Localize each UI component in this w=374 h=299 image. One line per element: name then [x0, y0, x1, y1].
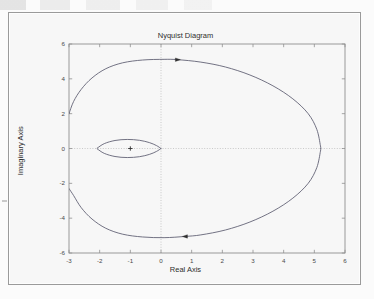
figure-window: Nyquist Diagram Real Axis Imaginary Axis… [8, 12, 361, 285]
direction-arrow-bottom [182, 235, 187, 238]
nyquist-curve [97, 139, 161, 148]
x-axis-tick-label: -1 [128, 258, 134, 264]
y-axis-tick-label: -4 [47, 215, 65, 221]
x-axis-tick-label: 3 [251, 258, 254, 264]
plot-stage: Nyquist Diagram Real Axis Imaginary Axis… [9, 13, 362, 286]
x-axis-tick-label: 5 [313, 258, 316, 264]
y-axis-tick-label: 4 [47, 76, 65, 82]
y-axis-tick-label: 2 [47, 111, 65, 117]
x-axis-tick-label: 6 [343, 258, 346, 264]
x-axis-tick-label: 2 [221, 258, 224, 264]
x-axis-tick-label: 0 [159, 258, 162, 264]
nyquist-curve [69, 59, 321, 148]
y-axis-title: Imaginary Axis [17, 101, 25, 201]
nyquist-curve [97, 149, 161, 158]
screenshot-page: Nyquist Diagram Real Axis Imaginary Axis… [0, 0, 374, 299]
nyquist-curve [69, 149, 321, 238]
x-axis-tick-label: 1 [190, 258, 193, 264]
y-axis-tick-label: -6 [47, 250, 65, 256]
x-axis-tick-label: -2 [97, 258, 103, 264]
x-axis-tick-label: -3 [66, 258, 72, 264]
x-axis-tick-label: 4 [282, 258, 285, 264]
y-axis-tick-label: -2 [47, 180, 65, 186]
y-axis-tick-label: 6 [47, 41, 65, 47]
direction-arrow-top [175, 58, 180, 61]
curve-group [69, 58, 321, 238]
scan-artifact-top-edge [0, 0, 374, 10]
scan-artifact-left-mark [2, 200, 7, 202]
x-axis-title: Real Axis [9, 266, 362, 274]
y-axis-tick-label: 0 [47, 145, 65, 151]
